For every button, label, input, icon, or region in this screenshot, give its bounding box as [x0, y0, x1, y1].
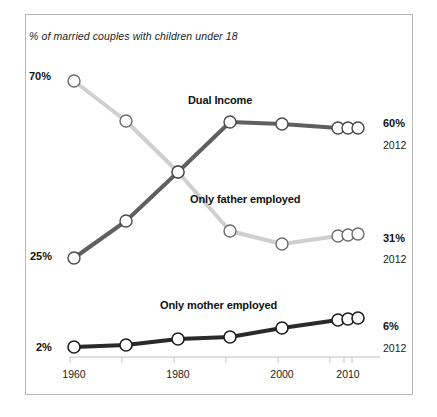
- xtick-label-1960: 1960: [56, 368, 92, 380]
- data-point: [224, 116, 236, 128]
- xtick-label-2010: 2010: [330, 368, 366, 380]
- end-value-only-mother: 6%: [383, 320, 399, 332]
- end-year-dual-income: 2012: [383, 139, 406, 151]
- end-value-dual-income: 60%: [383, 117, 405, 129]
- end-year-only-mother: 2012: [383, 342, 406, 354]
- data-point: [224, 225, 236, 237]
- data-point: [120, 115, 132, 127]
- data-point: [172, 166, 184, 178]
- start-value-only-mother: 2%: [36, 341, 52, 353]
- data-point: [352, 122, 364, 134]
- end-year-only-father: 2012: [383, 253, 406, 265]
- data-point: [276, 322, 288, 334]
- data-point: [68, 252, 80, 264]
- data-point: [224, 331, 236, 343]
- data-point: [352, 312, 364, 324]
- xtick-label-2000: 2000: [264, 368, 300, 380]
- data-point: [276, 238, 288, 250]
- series-label-only-mother: Only mother employed: [160, 299, 277, 311]
- series-line-only-mother: [74, 318, 358, 347]
- data-point: [352, 228, 364, 240]
- xtick-label-1980: 1980: [160, 368, 196, 380]
- series-label-dual-income: Dual Income: [188, 94, 252, 106]
- start-value-dual-income: 25%: [30, 250, 52, 262]
- data-point: [120, 215, 132, 227]
- data-point: [120, 339, 132, 351]
- chart-plot-area: [0, 0, 437, 417]
- data-point: [276, 118, 288, 130]
- x-axis-ticks: [70, 357, 352, 363]
- data-point: [68, 75, 80, 87]
- data-point: [172, 333, 184, 345]
- data-point: [68, 341, 80, 353]
- series-label-only-father: Only father employed: [190, 193, 300, 205]
- end-value-only-father: 31%: [383, 232, 405, 244]
- start-value-only-father: 70%: [29, 70, 51, 82]
